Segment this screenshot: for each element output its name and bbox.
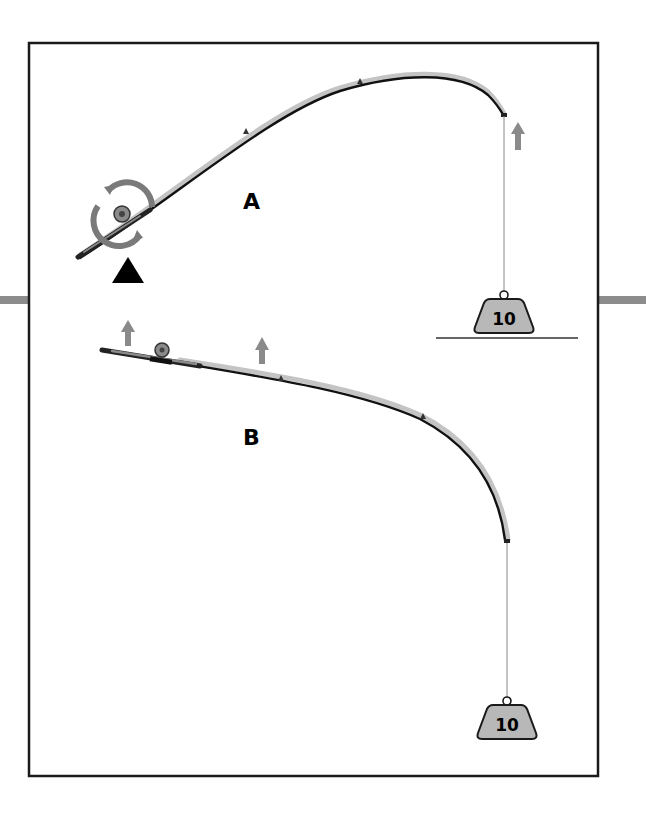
diagram-frame bbox=[29, 43, 598, 776]
weight-a-label: 10 bbox=[492, 309, 516, 329]
rod-bend-diagram: A 10 bbox=[0, 0, 646, 816]
panel-b-label: B bbox=[243, 425, 260, 450]
weight-b-label: 10 bbox=[495, 715, 519, 735]
side-bar-left bbox=[0, 296, 30, 304]
side-bar-right bbox=[598, 296, 646, 304]
panel-a-label: A bbox=[243, 189, 260, 214]
rod-b-tip bbox=[504, 539, 510, 543]
